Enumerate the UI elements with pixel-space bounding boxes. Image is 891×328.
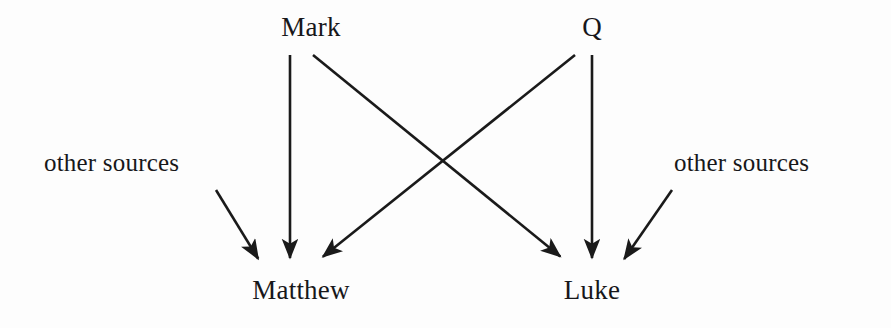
edge-mark-to-luke [313,55,560,257]
node-label-other-sources-right: other sources [674,150,809,175]
edge-othersources-right-to-luke [624,190,672,259]
node-label-q: Q [582,14,602,41]
node-label-matthew: Matthew [252,277,349,304]
node-label-mark: Mark [281,14,340,41]
diagram-canvas: Mark Q other sources other sources Matth… [0,0,891,328]
node-label-luke: Luke [564,277,620,304]
edge-q-to-matthew [323,55,575,257]
node-label-other-sources-left: other sources [44,150,179,175]
edge-othersources-left-to-matthew [216,190,258,259]
